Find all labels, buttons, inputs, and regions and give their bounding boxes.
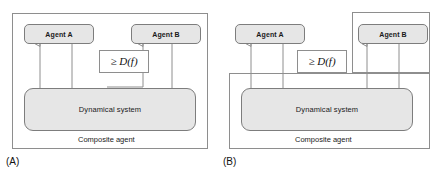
node-dynamical-system-label: Dynamical system: [79, 106, 141, 114]
coupling-bound-label: ≥ D(f): [308, 56, 335, 67]
coupling-bound-box-a: ≥ D(f): [99, 50, 149, 73]
composite-agent-caption-b: Composite agent: [295, 136, 352, 144]
composite-agent-caption-a: Composite agent: [78, 136, 135, 144]
composite-agent-caption-text: Composite agent: [295, 135, 352, 144]
coupling-bound-label: ≥ D(f): [110, 56, 137, 67]
panel-tag-b-text: (B): [223, 156, 236, 167]
node-agent-a-label: Agent A: [45, 31, 72, 38]
node-agent-a-panel-b: Agent A: [235, 24, 305, 44]
node-dynamical-system-panel-a: Dynamical system: [24, 88, 196, 131]
panel-tag-a-text: (A): [6, 156, 19, 167]
node-agent-b-panel-b: Agent B: [358, 24, 428, 44]
node-agent-b-panel-a: Agent B: [131, 24, 201, 44]
coupling-bound-box-b: ≥ D(f): [297, 50, 347, 73]
composite-agent-caption-text: Composite agent: [78, 135, 135, 144]
panel-a: Agent A Agent B ≥ D(f) Dynamical system …: [0, 0, 219, 182]
node-agent-a-label: Agent A: [256, 31, 283, 38]
panel-b: Agent A Agent B ≥ D(f) Dynamical system …: [219, 0, 438, 182]
node-agent-a-panel-a: Agent A: [24, 24, 94, 44]
panel-tag-b: (B): [223, 157, 236, 167]
node-agent-b-label: Agent B: [152, 31, 180, 38]
node-dynamical-system-panel-b: Dynamical system: [241, 88, 413, 131]
node-agent-b-label: Agent B: [379, 31, 407, 38]
node-dynamical-system-label: Dynamical system: [296, 106, 358, 114]
panel-tag-a: (A): [6, 157, 19, 167]
figure-two-panel-agent-diagram: Agent A Agent B ≥ D(f) Dynamical system …: [0, 0, 438, 182]
